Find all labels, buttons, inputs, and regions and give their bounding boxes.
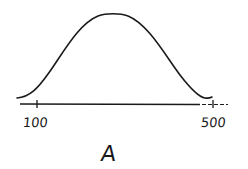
x-tick-label-100: 100 [22,116,48,129]
chart-caption: A [99,143,117,165]
bell-curve-chart: 100 500 A [0,0,248,169]
x-tick-label-500: 500 [200,116,226,129]
bell-curve-line [17,14,212,98]
chart-canvas [0,0,248,169]
